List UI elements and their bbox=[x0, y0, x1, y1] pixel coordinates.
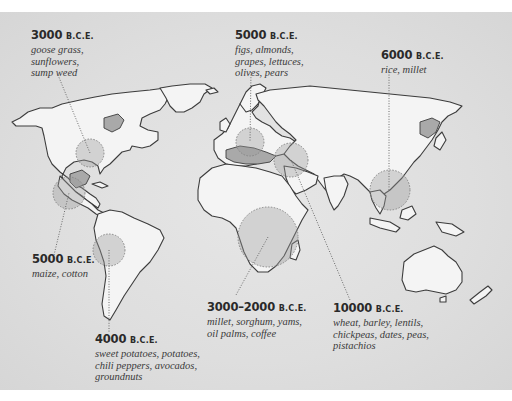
label-crops: millet, sorghum, yams, oil palms, coffee bbox=[207, 316, 307, 339]
label-sub-saharan-africa: 3000–2000 B.C.E. millet, sorghum, yams, … bbox=[207, 300, 307, 339]
east-asia-coast bbox=[420, 118, 440, 138]
origin-circle-east-asia bbox=[370, 170, 410, 210]
label-andes: 4000 B.C.E. sweet potatoes, potatoes, ch… bbox=[95, 332, 200, 383]
label-mediterranean: 5000 B.C.E. figs, almonds, grapes, lettu… bbox=[235, 28, 304, 79]
label-year: 3000 B.C.E. bbox=[31, 28, 94, 44]
label-crops: sweet potatoes, potatoes, chili peppers,… bbox=[95, 348, 200, 383]
australia bbox=[402, 246, 462, 294]
label-crops: figs, almonds, grapes, lettuces, olives,… bbox=[235, 44, 304, 79]
label-year: 4000 B.C.E. bbox=[95, 332, 200, 348]
borneo bbox=[400, 206, 416, 220]
label-year: 3000–2000 B.C.E. bbox=[207, 300, 307, 316]
label-crops: maize, cotton bbox=[32, 268, 95, 280]
label-east-asia: 6000 B.C.E. rice, millet bbox=[381, 48, 444, 76]
label-crops: wheat, barley, lentils, chickpeas, dates… bbox=[333, 317, 429, 352]
indonesia bbox=[370, 218, 400, 232]
caribbean-islands bbox=[92, 182, 108, 188]
label-year: 5000 B.C.E. bbox=[235, 28, 304, 44]
origin-circle-mesoamerica bbox=[53, 177, 85, 209]
label-north-america: 3000 B.C.E. goose grass, sunflowers, sum… bbox=[31, 28, 94, 79]
label-crops: goose grass, sunflowers, sump weed bbox=[31, 44, 94, 79]
origin-circle-north-america bbox=[76, 139, 104, 167]
india bbox=[324, 176, 348, 210]
label-crops: rice, millet bbox=[381, 64, 444, 76]
label-fertile-crescent: 10000 B.C.E. wheat, barley, lentils, chi… bbox=[333, 301, 429, 352]
label-year: 5000 B.C.E. bbox=[32, 252, 95, 268]
label-year: 10000 B.C.E. bbox=[333, 301, 429, 317]
label-year: 6000 B.C.E. bbox=[381, 48, 444, 64]
greenland bbox=[160, 84, 212, 112]
new-zealand bbox=[470, 286, 492, 304]
new-guinea bbox=[436, 222, 464, 236]
label-mesoamerica: 5000 B.C.E. maize, cotton bbox=[32, 252, 95, 280]
tasmania bbox=[440, 296, 446, 302]
